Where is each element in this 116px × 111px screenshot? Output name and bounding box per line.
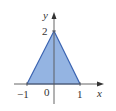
x-axis-arrow-icon xyxy=(97,82,104,87)
x-axis-label: x xyxy=(96,87,102,99)
tick-label-origin: 0 xyxy=(44,86,50,98)
triangle-diagram: y 2 −1 0 1 x xyxy=(0,0,116,111)
tick-label-y-2: 2 xyxy=(42,25,48,37)
y-axis-label: y xyxy=(42,9,48,21)
y-axis-arrow-icon xyxy=(52,12,57,19)
tick-label-x-neg1: −1 xyxy=(17,88,29,100)
tick-label-x-pos1: 1 xyxy=(77,88,83,100)
triangle-region xyxy=(27,31,80,84)
